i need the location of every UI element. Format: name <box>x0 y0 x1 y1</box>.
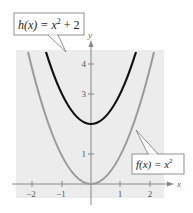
x-axis-label: x <box>176 179 181 189</box>
h-callout-pointer <box>48 35 66 52</box>
x-tick-label: −2 <box>26 189 36 199</box>
y-tick-label: 1 <box>82 149 87 159</box>
y-axis-label: y <box>87 30 92 40</box>
chart: x y −2 −1 1 2 1 3 4 h(x) = x2 + 2 f(x) =… <box>0 0 193 213</box>
x-tick-label: −1 <box>56 189 66 199</box>
h-label: h(x) = x2 + 2 <box>18 17 80 32</box>
y-tick-label: 4 <box>82 59 87 69</box>
x-axis-arrow-icon <box>167 182 174 187</box>
y-axis-arrow-icon <box>89 40 94 47</box>
f-label: f(x) = x2 <box>136 157 173 171</box>
x-tick-label: 1 <box>118 189 123 199</box>
y-tick-label: 3 <box>82 89 87 99</box>
x-tick-label: 2 <box>148 189 153 199</box>
